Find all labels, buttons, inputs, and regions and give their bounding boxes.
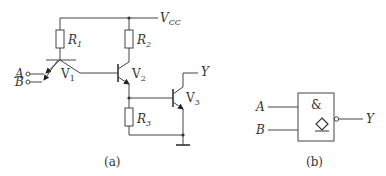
circuit-diagram: VCC R1 R2 V1 A B [0, 0, 386, 176]
input-a-terminal [26, 72, 30, 76]
gate-output-y-label: Y [366, 112, 375, 126]
resistor-r2 [125, 30, 133, 48]
output-y-label: Y [201, 65, 210, 79]
v1-label: V1 [60, 67, 75, 83]
inversion-bubble [334, 117, 338, 121]
v2-label: V2 [131, 67, 146, 83]
transistor-v2 [118, 62, 129, 98]
resistor-r3 [125, 108, 133, 126]
vcc-label: VCC [160, 11, 181, 27]
input-b-label: B [14, 75, 24, 89]
r2-label: R2 [136, 33, 151, 49]
v3-label: V3 [185, 91, 200, 107]
gate-input-a-label: A [255, 100, 265, 114]
input-b-terminal [26, 80, 30, 84]
and-symbol: & [311, 98, 322, 112]
caption-a: (a) [104, 155, 121, 169]
figure-a: VCC R1 R2 V1 A B [14, 11, 210, 169]
gate-input-b-label: B [255, 123, 265, 137]
r3-label: R3 [136, 112, 151, 128]
transistor-v1 [44, 60, 118, 80]
figure-b: & Y A B (b) [255, 93, 375, 169]
resistor-r1 [56, 30, 64, 48]
caption-b: (b) [306, 155, 323, 169]
r1-label: R1 [67, 33, 82, 49]
transistor-v3 [173, 73, 198, 145]
